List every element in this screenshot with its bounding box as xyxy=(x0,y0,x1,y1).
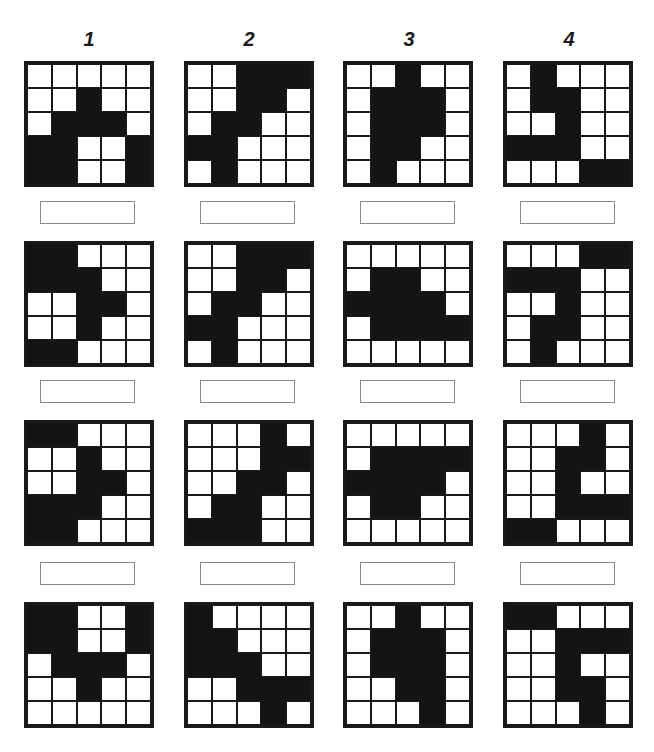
empty-cell xyxy=(126,268,151,292)
empty-cell xyxy=(187,471,212,495)
answer-box-r2-c4[interactable] xyxy=(520,380,615,403)
answer-box-r1-c4[interactable] xyxy=(520,201,615,224)
filled-cell xyxy=(286,447,311,471)
empty-cell xyxy=(187,447,212,471)
filled-cell xyxy=(261,447,286,471)
empty-cell xyxy=(445,653,470,677)
filled-cell xyxy=(261,471,286,495)
filled-cell xyxy=(101,292,126,316)
empty-cell xyxy=(445,629,470,653)
filled-cell xyxy=(556,495,581,519)
filled-cell xyxy=(52,112,77,136)
empty-cell xyxy=(126,292,151,316)
empty-cell xyxy=(27,292,52,316)
empty-cell xyxy=(531,423,556,447)
column-label-1: 1 xyxy=(69,28,109,51)
answer-box-r3-c2[interactable] xyxy=(200,562,295,585)
filled-cell xyxy=(237,519,262,543)
empty-cell xyxy=(445,292,470,316)
pattern-grid-r4-c3 xyxy=(343,602,473,728)
empty-cell xyxy=(346,495,371,519)
filled-cell xyxy=(580,160,605,184)
filled-cell xyxy=(212,495,237,519)
empty-cell xyxy=(556,423,581,447)
empty-cell xyxy=(531,160,556,184)
empty-cell xyxy=(506,340,531,364)
empty-cell xyxy=(212,64,237,88)
filled-cell xyxy=(77,88,102,112)
empty-cell xyxy=(445,495,470,519)
empty-cell xyxy=(237,629,262,653)
filled-cell xyxy=(605,495,630,519)
filled-cell xyxy=(261,423,286,447)
empty-cell xyxy=(580,88,605,112)
answer-box-r3-c3[interactable] xyxy=(360,562,455,585)
filled-cell xyxy=(237,112,262,136)
empty-cell xyxy=(531,701,556,725)
filled-cell xyxy=(212,136,237,160)
empty-cell xyxy=(27,471,52,495)
answer-box-r2-c1[interactable] xyxy=(40,380,135,403)
empty-cell xyxy=(286,605,311,629)
empty-cell xyxy=(77,136,102,160)
answer-box-r1-c3[interactable] xyxy=(360,201,455,224)
empty-cell xyxy=(27,316,52,340)
filled-cell xyxy=(212,292,237,316)
filled-cell xyxy=(396,136,421,160)
answer-box-r2-c3[interactable] xyxy=(360,380,455,403)
empty-cell xyxy=(506,471,531,495)
filled-cell xyxy=(52,340,77,364)
empty-cell xyxy=(605,88,630,112)
empty-cell xyxy=(556,244,581,268)
filled-cell xyxy=(506,519,531,543)
pattern-grid-r1-c2 xyxy=(184,61,314,187)
empty-cell xyxy=(212,447,237,471)
empty-cell xyxy=(396,340,421,364)
filled-cell xyxy=(506,268,531,292)
pattern-grid-r1-c3 xyxy=(343,61,473,187)
answer-box-r1-c2[interactable] xyxy=(200,201,295,224)
filled-cell xyxy=(371,292,396,316)
empty-cell xyxy=(445,519,470,543)
empty-cell xyxy=(27,64,52,88)
pattern-grid-r3-c4 xyxy=(503,420,633,546)
empty-cell xyxy=(346,629,371,653)
empty-cell xyxy=(126,447,151,471)
empty-cell xyxy=(605,292,630,316)
filled-cell xyxy=(212,112,237,136)
filled-cell xyxy=(396,629,421,653)
empty-cell xyxy=(556,605,581,629)
filled-cell xyxy=(187,653,212,677)
empty-cell xyxy=(237,340,262,364)
filled-cell xyxy=(371,88,396,112)
empty-cell xyxy=(101,605,126,629)
answer-box-r1-c1[interactable] xyxy=(40,201,135,224)
filled-cell xyxy=(396,471,421,495)
answer-box-r3-c1[interactable] xyxy=(40,562,135,585)
empty-cell xyxy=(261,340,286,364)
filled-cell xyxy=(396,605,421,629)
filled-cell xyxy=(396,268,421,292)
empty-cell xyxy=(346,268,371,292)
filled-cell xyxy=(52,629,77,653)
pattern-grid-r4-c1 xyxy=(24,602,154,728)
empty-cell xyxy=(531,653,556,677)
answer-box-r2-c2[interactable] xyxy=(200,380,295,403)
answer-box-r3-c4[interactable] xyxy=(520,562,615,585)
filled-cell xyxy=(261,64,286,88)
filled-cell xyxy=(27,629,52,653)
empty-cell xyxy=(420,244,445,268)
filled-cell xyxy=(396,677,421,701)
empty-cell xyxy=(506,495,531,519)
filled-cell xyxy=(261,677,286,701)
filled-cell xyxy=(371,268,396,292)
empty-cell xyxy=(580,605,605,629)
empty-cell xyxy=(237,423,262,447)
empty-cell xyxy=(101,495,126,519)
filled-cell xyxy=(556,629,581,653)
empty-cell xyxy=(261,292,286,316)
empty-cell xyxy=(346,653,371,677)
filled-cell xyxy=(27,519,52,543)
filled-cell xyxy=(212,340,237,364)
empty-cell xyxy=(605,677,630,701)
